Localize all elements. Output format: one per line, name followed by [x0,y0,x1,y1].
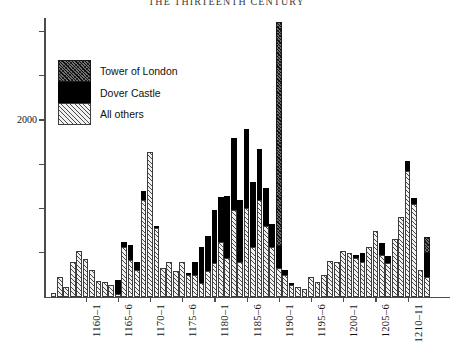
bar-segment [141,191,147,201]
bar-segment [128,260,134,297]
bar-segment [70,262,76,297]
bar-segment [289,285,295,297]
bar-segment [57,277,63,297]
bar-segment [340,251,346,297]
bar-segment [141,200,147,297]
bar-segment [424,277,430,297]
x-axis-tick [279,297,280,302]
bar-segment [373,231,379,297]
bar-segment [212,263,218,297]
bar-segment [405,161,411,172]
bar-segment [360,253,366,263]
bar-segment [353,258,359,297]
bar-segment [282,275,288,297]
bar-segment [295,287,301,297]
bar-segment [276,268,282,297]
bar-segment [224,258,230,297]
bar-segment [315,282,321,297]
x-axis-label: 1160–1 [91,304,102,337]
chart-figure: THE THIRTEENTH CENTURY 2000 1160–11165–6… [0,0,453,350]
bar-segment [51,293,57,297]
bar-segment [128,245,134,260]
x-axis-label: 1195–6 [316,304,327,337]
bar-segment [385,256,391,263]
bar-segment [237,262,243,297]
legend-swatch-dover [58,82,91,104]
bar-segment [192,275,198,297]
bar-segment [308,277,314,297]
x-axis-tick [375,297,376,302]
legend-swatch-tower [58,60,91,82]
bar-segment [379,243,385,255]
chart-title: THE THIRTEENTH CENTURY [0,0,453,7]
x-axis-label: 1170–1 [155,304,166,337]
x-axis-label: 1190–1 [284,304,295,337]
x-axis-label: 1165–6 [123,304,134,337]
bar-segment [244,208,250,297]
bar-segment [186,275,192,297]
x-axis-label: 1210–11 [413,304,424,342]
bar-segment [289,283,295,285]
bar-segment [179,262,185,297]
bar-segment [231,210,237,297]
bar-segment [108,285,114,297]
bar-segment [282,270,288,275]
x-axis-tick [247,297,248,302]
bar-segment [392,239,398,297]
x-axis-tick [214,297,215,302]
bar-segment [276,246,282,268]
bar-segment [147,152,153,297]
bar-segment [212,210,218,263]
bar-segment [205,271,211,297]
legend-swatch-other [58,103,91,125]
bar-segment [411,198,417,204]
bar-segment [205,236,211,271]
x-axis-tick [311,297,312,302]
x-axis-tick [118,297,119,302]
x-axis-label: 1180–1 [219,304,230,337]
bar-segment [347,253,353,297]
bar-segment [379,255,385,297]
legend-label: Tower of London [100,65,178,77]
bar-segment [411,204,417,297]
bar-segment [250,182,256,248]
bar-segment [154,226,160,228]
legend-label: Dover Castle [100,87,161,99]
bar-segment [327,261,333,297]
x-axis-label: 1175–6 [187,304,198,337]
bar-segment [83,259,89,297]
x-axis-tick [182,297,183,302]
x-axis-tick [150,297,151,302]
bar-segment [76,251,82,297]
bar-segment [218,242,224,297]
bar-segment [134,262,140,271]
bar-segment [89,270,95,297]
bar-segment [121,247,127,297]
bar-segment [353,255,359,258]
bar-segment [276,22,282,246]
bar-segment [154,228,160,297]
bar-segment [166,262,172,297]
bar-segment [186,273,192,275]
bar-segment [134,270,140,297]
x-axis-label: 1205–6 [380,304,391,337]
y-axis-label: 2000 [17,114,37,125]
legend-label: All others [100,108,144,120]
x-axis-tick [408,297,409,302]
bar-segment [321,275,327,297]
x-axis-tick [343,297,344,302]
bar-segment [160,268,166,297]
bar-segment [102,282,108,297]
bar-segment [231,138,237,211]
bar-segment [224,196,230,258]
bar-segment [263,188,269,226]
bar-segment [199,283,205,297]
bar-segment [192,262,198,274]
x-axis-label: 1200–1 [348,304,359,337]
bar-segment [405,171,411,297]
bar-segment [424,253,430,277]
bar-segment [366,247,372,297]
bar-segment [173,271,179,297]
bar-segment [263,226,269,297]
bar-segment [257,149,263,199]
